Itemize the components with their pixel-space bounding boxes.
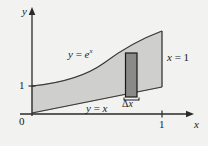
- upper-curve-label-exponent: x: [90, 47, 93, 54]
- strip-width-label: Δx: [122, 99, 133, 109]
- right-boundary-label-eq: =: [172, 51, 184, 63]
- lower-line-label-x: x: [103, 102, 108, 114]
- x-axis-tick-label-1: 1: [159, 119, 165, 130]
- y-axis-arrowhead: [29, 7, 36, 15]
- integral-area-figure: [0, 0, 208, 146]
- lower-line-label-eq: =: [91, 102, 103, 114]
- strip-width-label-var: x: [128, 98, 132, 109]
- upper-curve-label-eq: =: [73, 48, 85, 60]
- origin-label: 0: [19, 116, 25, 127]
- right-boundary-label-value: 1: [184, 51, 190, 63]
- y-axis-label: y: [22, 6, 27, 17]
- x-axis-arrowhead: [186, 111, 194, 118]
- x-axis-label: x: [194, 119, 199, 130]
- lower-line-label: y = x: [86, 103, 108, 114]
- right-boundary-label: x = 1: [167, 52, 189, 63]
- shaded-region: [32, 31, 162, 113]
- representative-rectangle: [126, 53, 138, 97]
- y-axis-tick-label-1: 1: [19, 80, 25, 91]
- upper-curve-label: y = ex: [68, 48, 93, 60]
